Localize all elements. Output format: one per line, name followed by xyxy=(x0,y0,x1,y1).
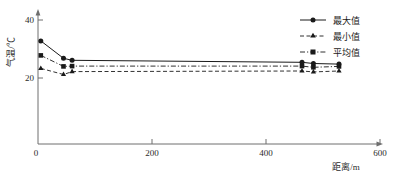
y-axis-arrow xyxy=(36,9,41,16)
square-marker-icon xyxy=(311,50,316,55)
chart-legend: 最大值 最小值 平均值 xyxy=(300,15,360,58)
legend-item-min[interactable]: 最小值 xyxy=(300,31,360,42)
chart-canvas: 40 20 0 200 400 600 距离/m 气温/℃ xyxy=(0,0,393,177)
data-point-marker xyxy=(38,38,43,43)
y-tick-label-20: 20 xyxy=(25,73,35,83)
series-min xyxy=(38,65,341,76)
series-max xyxy=(38,38,341,66)
series-max-line xyxy=(41,41,339,64)
data-point-marker xyxy=(70,58,75,63)
data-point-marker xyxy=(61,56,66,61)
x-axis-ticks xyxy=(152,139,380,144)
series-min-line xyxy=(41,68,339,74)
legend-item-max[interactable]: 最大值 xyxy=(300,15,360,26)
data-point-marker xyxy=(70,69,75,74)
circle-marker-icon xyxy=(311,18,316,23)
data-point-marker xyxy=(70,64,75,69)
data-point-marker xyxy=(299,68,304,73)
data-point-marker xyxy=(337,62,342,67)
legend-item-avg[interactable]: 平均值 xyxy=(300,47,360,58)
data-point-marker xyxy=(300,60,305,65)
legend-label-avg: 平均值 xyxy=(333,47,360,58)
legend-label-max: 最大值 xyxy=(333,15,360,26)
x-tick-label-0: 0 xyxy=(34,148,39,158)
data-point-marker xyxy=(311,61,316,66)
data-point-marker xyxy=(38,65,43,70)
x-tick-label-400: 400 xyxy=(259,148,273,158)
axis-lines xyxy=(36,9,383,146)
triangle-marker-icon xyxy=(310,33,316,38)
y-axis-title: 气温/℃ xyxy=(5,37,16,67)
x-axis-title: 距离/m xyxy=(332,161,360,172)
chart-figure: 40 20 0 200 400 600 距离/m 气温/℃ xyxy=(0,0,393,177)
x-tick-label-200: 200 xyxy=(145,148,159,158)
data-point-marker xyxy=(61,64,66,69)
legend-label-min: 最小值 xyxy=(333,31,360,42)
data-point-marker xyxy=(39,53,44,58)
y-tick-label-40: 40 xyxy=(25,15,35,25)
x-tick-label-600: 600 xyxy=(373,148,387,158)
